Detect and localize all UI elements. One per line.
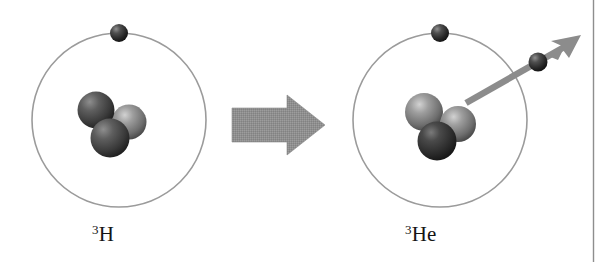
beta-decay-figure: 3H 3He	[0, 0, 607, 262]
isotope-symbol-right: He	[412, 222, 437, 246]
isotope-label-helium3: 3He	[405, 222, 437, 245]
electron-left-atom	[110, 24, 128, 42]
nucleon-neutron-lower-right-atom	[418, 122, 457, 161]
nucleon-neutron-lower-left-atom	[91, 119, 130, 158]
isotope-mass-number-right: 3	[405, 222, 412, 237]
isotope-label-tritium: 3H	[92, 222, 114, 245]
isotope-symbol-left: H	[99, 222, 114, 246]
isotope-mass-number-left: 3	[92, 222, 99, 237]
electron-right-atom	[431, 24, 449, 42]
beta-emission-arrow-head	[548, 35, 581, 60]
beta-particle	[529, 53, 548, 72]
reaction-arrow	[232, 95, 325, 155]
